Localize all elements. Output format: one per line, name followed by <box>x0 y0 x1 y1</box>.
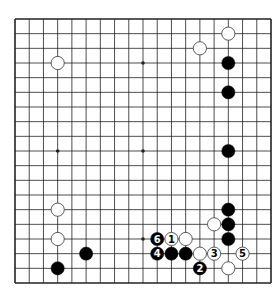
black-stone <box>179 247 192 260</box>
black-stone <box>222 56 235 69</box>
black-stone <box>51 262 64 275</box>
white-stone <box>51 56 64 69</box>
black-stone-move-2: 2 <box>193 262 206 275</box>
move-number-label: 3 <box>211 248 218 259</box>
white-stone-move-1: 1 <box>165 232 178 245</box>
black-stone <box>222 218 235 231</box>
move-number-label: 6 <box>154 234 161 245</box>
white-stone <box>51 203 64 216</box>
move-number-label: 5 <box>239 248 246 259</box>
black-stone <box>165 247 178 260</box>
white-stone-move-5: 5 <box>236 247 249 260</box>
white-stone <box>208 218 221 231</box>
white-stone <box>222 27 235 40</box>
black-stone-move-4: 4 <box>151 247 164 260</box>
star-point <box>141 237 145 241</box>
white-stone <box>51 232 64 245</box>
white-stone <box>179 232 192 245</box>
black-stone <box>222 232 235 245</box>
star-point <box>56 149 60 153</box>
black-stone <box>222 86 235 99</box>
star-point <box>141 149 145 153</box>
white-stone-move-3: 3 <box>208 247 221 260</box>
star-point <box>141 61 145 65</box>
move-number-label: 1 <box>168 234 175 245</box>
black-stone <box>80 247 93 260</box>
black-stone <box>222 203 235 216</box>
move-number-label: 4 <box>154 248 161 259</box>
go-board: 614352 <box>0 0 280 297</box>
black-stone-move-6: 6 <box>151 232 164 245</box>
white-stone <box>193 42 206 55</box>
black-stone <box>222 144 235 157</box>
move-number-label: 2 <box>196 263 203 274</box>
white-stone <box>193 247 206 260</box>
white-stone <box>222 262 235 275</box>
